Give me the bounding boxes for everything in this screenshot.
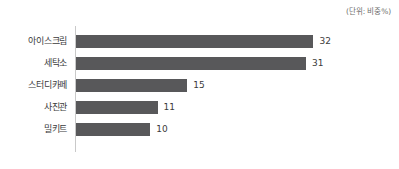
bar bbox=[76, 101, 158, 114]
category-label: 사진관 bbox=[0, 96, 67, 118]
bar-row: 세탁소31 bbox=[0, 52, 399, 74]
category-label: 밀키트 bbox=[0, 118, 67, 140]
bar-row: 사진관11 bbox=[0, 96, 399, 118]
value-label: 15 bbox=[193, 74, 204, 96]
bar bbox=[76, 35, 313, 48]
bar-row: 아이스크림32 bbox=[0, 30, 399, 52]
unit-note: (단위: 비중%) bbox=[346, 5, 391, 16]
bar bbox=[76, 79, 187, 92]
bar bbox=[76, 123, 150, 136]
bar-row: 밀키트10 bbox=[0, 118, 399, 140]
plot-area: 아이스크림32세탁소31스터디카페15사진관11밀키트10 bbox=[0, 26, 399, 152]
category-label: 세탁소 bbox=[0, 52, 67, 74]
value-label: 32 bbox=[319, 30, 330, 52]
value-label: 31 bbox=[312, 52, 323, 74]
value-label: 10 bbox=[156, 118, 167, 140]
category-label: 아이스크림 bbox=[0, 30, 67, 52]
bar-chart: (단위: 비중%) 아이스크림32세탁소31스터디카페15사진관11밀키트10 bbox=[0, 0, 399, 169]
bar-row: 스터디카페15 bbox=[0, 74, 399, 96]
bar bbox=[76, 57, 306, 70]
value-label: 11 bbox=[164, 96, 175, 118]
category-label: 스터디카페 bbox=[0, 74, 67, 96]
